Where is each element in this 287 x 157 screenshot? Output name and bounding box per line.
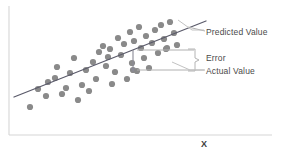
scatter-point xyxy=(143,33,149,39)
scatter-point xyxy=(96,49,102,55)
scatter-point xyxy=(124,76,130,82)
scatter-point xyxy=(158,22,164,28)
scatter-point xyxy=(129,60,135,66)
scatter-point xyxy=(127,29,133,35)
scatter-point xyxy=(27,104,33,110)
scatter-point xyxy=(103,63,109,69)
error-bracket xyxy=(188,49,199,71)
actual-value-label: Actual Value xyxy=(206,67,255,76)
scatter-point xyxy=(90,59,96,65)
actual-value-leader xyxy=(172,62,204,70)
scatter-point xyxy=(163,46,169,52)
scatter-point xyxy=(136,24,142,30)
scatter-point xyxy=(167,19,173,25)
scatter-points xyxy=(27,19,180,110)
scatter-point xyxy=(71,55,77,61)
scatter-point xyxy=(121,41,127,47)
plot-canvas xyxy=(0,0,287,157)
scatter-point xyxy=(100,43,106,49)
scatter-point xyxy=(107,46,113,52)
scatter-point xyxy=(141,55,147,61)
regression-error-diagram: Predicted Value Error Actual Value X xyxy=(0,0,287,157)
scatter-point xyxy=(109,81,115,87)
predicted-value-leader xyxy=(178,20,204,30)
scatter-point xyxy=(75,97,81,103)
scatter-point xyxy=(155,50,161,56)
predicted-value-label: Predicted Value xyxy=(206,28,268,37)
scatter-point xyxy=(63,85,69,91)
scatter-point xyxy=(152,27,158,33)
scatter-point xyxy=(43,93,49,99)
scatter-point xyxy=(115,35,121,41)
scatter-point xyxy=(86,88,92,94)
scatter-point xyxy=(131,38,137,44)
scatter-point xyxy=(93,76,99,82)
scatter-point xyxy=(174,42,180,48)
x-axis-label: X xyxy=(201,139,207,149)
error-label: Error xyxy=(206,54,226,63)
scatter-point xyxy=(54,64,60,70)
scatter-point xyxy=(79,82,85,88)
scatter-point xyxy=(59,91,65,97)
scatter-point xyxy=(112,69,118,75)
